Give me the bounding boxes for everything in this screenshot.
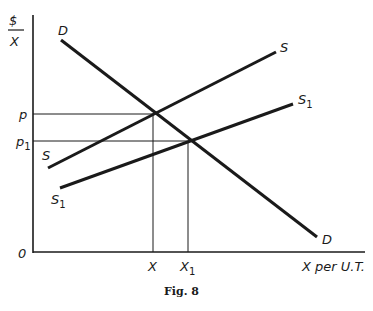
supply-label-start: S — [42, 148, 50, 163]
figure-caption: Fig. 8 — [164, 285, 199, 298]
price-label-p1: p1 — [15, 134, 31, 152]
quantity-label-x: X — [147, 259, 158, 274]
origin-label: 0 — [18, 246, 26, 261]
price-label-p: p — [18, 107, 27, 122]
supply1-label-start: S1 — [51, 192, 66, 210]
y-axis-label-x: X — [9, 34, 20, 49]
demand-curve — [61, 40, 317, 237]
x-axis-label: X per U.T. — [301, 259, 365, 274]
supply1-label-end: S1 — [298, 92, 313, 110]
demand-label-end: D — [322, 232, 332, 247]
supply-curve-s1 — [60, 104, 293, 188]
y-axis-label-dollar: $ — [9, 13, 17, 28]
quantity-label-x1: X1 — [179, 259, 195, 277]
demand-label-start: D — [58, 23, 68, 38]
supply-label-end: S — [280, 40, 288, 55]
supply-demand-diagram: $ X p p1 0 X X1 X per U.T. D D S S S1 S1… — [0, 0, 373, 311]
